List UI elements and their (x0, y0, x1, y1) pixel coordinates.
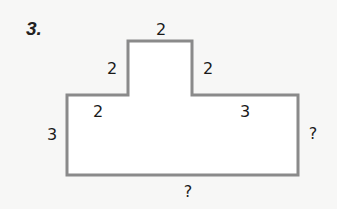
label-top: 2 (156, 20, 166, 39)
label-lower-left-top: 2 (93, 102, 103, 121)
label-lower-right-top: 3 (240, 102, 250, 121)
label-left-side: 3 (47, 125, 57, 144)
label-left-step: 2 (107, 59, 117, 78)
label-right-step: 2 (203, 59, 213, 78)
composite-shape (0, 0, 337, 209)
label-bottom: ? (184, 182, 193, 201)
label-right-side: ? (309, 124, 318, 143)
